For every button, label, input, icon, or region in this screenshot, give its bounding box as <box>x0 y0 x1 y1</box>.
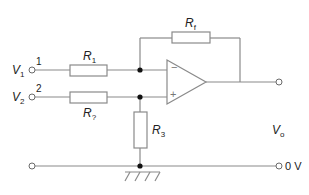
label-r1: R1 <box>83 50 96 65</box>
terminal-v2 <box>29 94 35 100</box>
opamp-inverting-sign: − <box>171 62 177 73</box>
label-v1: V1 <box>12 64 24 79</box>
resistor-r1 <box>70 65 107 76</box>
resistor-r3 <box>134 112 147 148</box>
junction-node <box>137 94 142 99</box>
label-rf: Rf <box>185 17 196 32</box>
opamp-noninverting-sign: + <box>170 89 176 100</box>
terminal-number-1: 1 <box>36 57 42 67</box>
label-0v: 0 V <box>285 161 302 172</box>
circuit-schematic <box>0 0 309 195</box>
label-r2: R? <box>83 107 96 122</box>
label-vo: Vo <box>272 124 284 139</box>
junction-node <box>137 67 142 72</box>
terminal-v1 <box>29 67 35 73</box>
terminal-output <box>276 79 282 85</box>
terminal-number-2: 2 <box>36 84 42 94</box>
resistor-r2 <box>70 92 107 103</box>
label-r3: R3 <box>152 124 165 139</box>
terminal-ground-right <box>276 163 282 169</box>
resistor-rf <box>172 32 210 43</box>
label-v2: V2 <box>12 91 24 106</box>
junction-node <box>137 163 142 168</box>
terminal-ground-left <box>29 163 35 169</box>
